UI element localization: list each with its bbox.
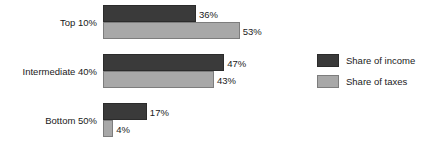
bar-value-label: 43% <box>217 74 236 85</box>
chart-legend: Share of income Share of taxes <box>317 53 415 95</box>
bar-value-label: 36% <box>199 8 218 19</box>
bar-value-label: 4% <box>116 123 130 134</box>
bar-value-label: 17% <box>150 106 169 117</box>
legend-swatch-icon <box>317 54 339 67</box>
bar-chart: Top 10% 36% 53% Intermediate 40% 47% 43% <box>0 0 438 147</box>
plot-area: Top 10% 36% 53% Intermediate 40% 47% 43% <box>0 0 300 147</box>
legend-item-share-of-income[interactable]: Share of income <box>317 53 415 68</box>
bar-stack: 36% 53% <box>103 5 240 39</box>
legend-label: Share of income <box>346 55 415 66</box>
legend-label: Share of taxes <box>346 76 407 87</box>
legend-item-share-of-taxes[interactable]: Share of taxes <box>317 74 415 89</box>
bar-stack: 17% 4% <box>103 103 147 137</box>
bar-share-of-income[interactable]: 36% <box>103 5 196 22</box>
category-label: Intermediate 40% <box>0 66 97 77</box>
legend-swatch-icon <box>317 75 339 88</box>
bar-value-label: 53% <box>243 25 262 36</box>
category-label: Top 10% <box>0 17 97 28</box>
bar-share-of-taxes[interactable]: 4% <box>103 120 113 137</box>
bar-share-of-income[interactable]: 17% <box>103 103 147 120</box>
bar-share-of-income[interactable]: 47% <box>103 54 224 71</box>
bar-value-label: 47% <box>227 57 246 68</box>
bar-share-of-taxes[interactable]: 53% <box>103 22 240 39</box>
bar-share-of-taxes[interactable]: 43% <box>103 71 214 88</box>
category-label: Bottom 50% <box>0 115 97 126</box>
bar-stack: 47% 43% <box>103 54 224 88</box>
